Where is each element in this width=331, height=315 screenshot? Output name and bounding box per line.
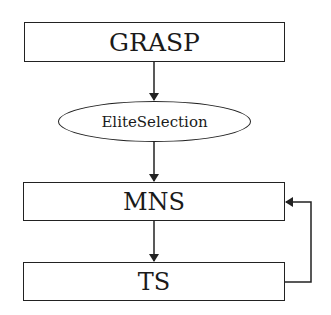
- node-mns-label: MNS: [123, 188, 185, 216]
- node-ts: TS: [23, 262, 285, 301]
- edge-ts-to-mns-feedback: [284, 202, 311, 282]
- node-ts-label: TS: [138, 268, 170, 296]
- node-grasp: GRASP: [24, 22, 285, 62]
- node-mns: MNS: [23, 182, 285, 221]
- node-grasp-label: GRASP: [109, 28, 200, 57]
- node-elite-selection-label: EliteSelection: [101, 113, 207, 131]
- node-elite-selection: EliteSelection: [58, 101, 251, 142]
